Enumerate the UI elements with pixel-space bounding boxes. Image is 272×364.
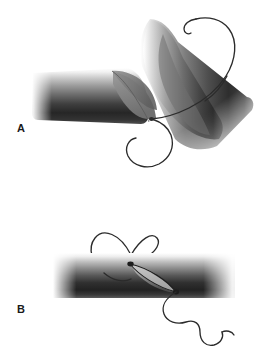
- panel-label-a: A: [17, 123, 25, 134]
- figure-container: A B: [0, 0, 272, 364]
- figure-background: [0, 0, 272, 364]
- panel-b-suture-entry-point: [127, 262, 133, 267]
- panel-label-b: B: [17, 304, 25, 315]
- figure-illustration: [0, 0, 272, 364]
- panel-a-suture-entry-point: [149, 117, 154, 121]
